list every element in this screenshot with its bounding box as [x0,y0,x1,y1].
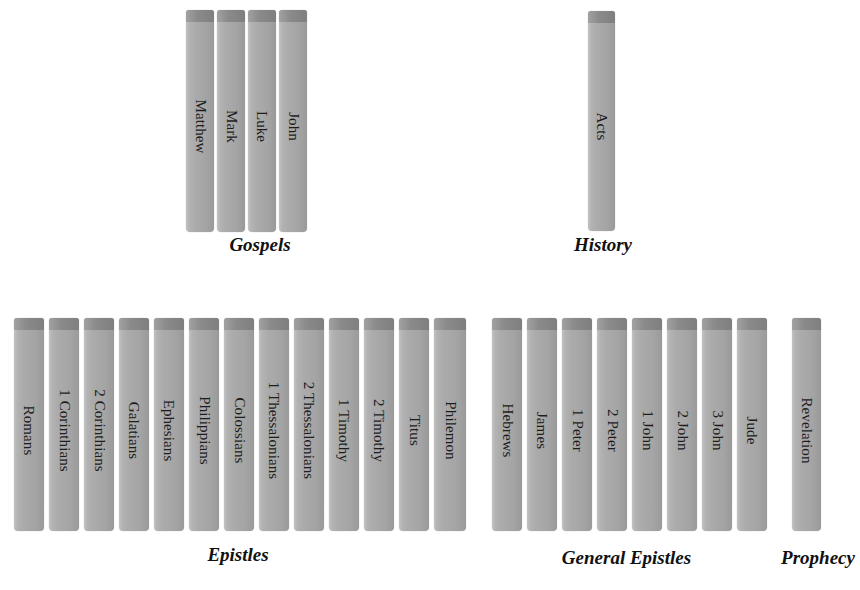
book-spine[interactable]: 1 Timothy [329,318,359,531]
book-title-text: James [535,411,550,448]
book-title: Titus [399,333,429,527]
book-spine[interactable]: Galatians [119,318,149,531]
book-title: Matthew [186,25,214,228]
book-title-text: Matthew [193,99,208,153]
book-top-cap [217,10,245,22]
book-title-text: 2 Timothy [372,398,387,461]
book-spine[interactable]: John [279,10,307,232]
book-title-text: Mark [224,110,239,143]
book-spine[interactable]: 1 Corinthians [49,318,79,531]
book-title-text: 2 John [675,410,690,450]
book-spine[interactable]: 1 John [632,318,662,531]
book-title: Hebrews [492,333,522,527]
book-title-text: Colossians [232,397,247,463]
book-top-cap [588,11,615,23]
book-top-cap [329,318,359,330]
book-spine[interactable]: Colossians [224,318,254,531]
book-title-text: 3 John [710,410,725,450]
book-top-cap [702,318,732,330]
group-caption-prophecy: Prophecy [753,547,860,569]
book-title: 2 Thessalonians [294,333,324,527]
book-title: Jude [737,333,767,527]
book-title-text: 1 Timothy [337,398,352,461]
book-title-text: 2 Thessalonians [302,381,317,478]
book-spine[interactable]: Luke [248,10,276,232]
book-title-text: Hebrews [500,403,515,457]
book-title: Revelation [792,333,821,527]
book-top-cap [186,10,214,22]
book-title: Colossians [224,333,254,527]
book-top-cap [632,318,662,330]
book-spine[interactable]: 1 Peter [562,318,592,531]
book-spine[interactable]: Hebrews [492,318,522,531]
book-spine[interactable]: 3 John [702,318,732,531]
book-spine[interactable]: Jude [737,318,767,531]
book-spine[interactable]: Philemon [434,318,466,531]
book-title: 1 Thessalonians [259,333,289,527]
book-title-text: 1 Peter [570,409,585,452]
book-title: 3 John [702,333,732,527]
book-title-text: Jude [745,416,760,444]
book-title-text: 2 Peter [605,409,620,452]
book-title: Mark [217,25,245,228]
book-title: John [279,25,307,228]
book-title: James [527,333,557,527]
book-spine[interactable]: 2 Timothy [364,318,394,531]
book-title: 1 Corinthians [49,333,79,527]
book-spine[interactable]: Romans [14,318,44,531]
book-spine[interactable]: James [527,318,557,531]
book-title-text: Philemon [443,401,458,459]
book-top-cap [562,318,592,330]
book-spine[interactable]: Mark [217,10,245,232]
book-spine[interactable]: Revelation [792,318,821,531]
book-top-cap [84,318,114,330]
book-title-text: Titus [407,415,422,446]
book-top-cap [119,318,149,330]
book-top-cap [364,318,394,330]
book-top-cap [189,318,219,330]
book-title: 1 Peter [562,333,592,527]
book-title: Luke [248,25,276,228]
book-title: 2 Peter [597,333,627,527]
book-spine[interactable]: Philippians [189,318,219,531]
book-spine[interactable]: Matthew [186,10,214,232]
book-title: 2 Timothy [364,333,394,527]
book-title-text: John [286,112,301,141]
book-spine[interactable]: 2 John [667,318,697,531]
book-top-cap [154,318,184,330]
book-top-cap [279,10,307,22]
group-caption-epistles: Epistles [183,544,293,566]
book-title-text: 1 John [640,410,655,450]
book-title: Galatians [119,333,149,527]
book-title: 2 Corinthians [84,333,114,527]
book-title: Ephesians [154,333,184,527]
book-top-cap [737,318,767,330]
book-title: 1 John [632,333,662,527]
book-title-text: Galatians [127,401,142,459]
book-spine[interactable]: Acts [588,11,615,231]
group-caption-general-epistles: General Epistles [524,547,729,569]
book-spine[interactable]: 2 Peter [597,318,627,531]
book-spine[interactable]: Ephesians [154,318,184,531]
book-spine[interactable]: 2 Corinthians [84,318,114,531]
book-title-text: Revelation [799,397,814,463]
book-top-cap [527,318,557,330]
book-top-cap [792,318,821,330]
book-title-text: Romans [22,405,37,455]
book-top-cap [49,318,79,330]
book-title: Acts [588,26,615,227]
book-spine[interactable]: 1 Thessalonians [259,318,289,531]
book-title: Romans [14,333,44,527]
book-top-cap [667,318,697,330]
book-top-cap [224,318,254,330]
book-title: Philippians [189,333,219,527]
group-caption-history: History [548,234,658,256]
book-top-cap [259,318,289,330]
book-spine[interactable]: Titus [399,318,429,531]
book-spine[interactable]: 2 Thessalonians [294,318,324,531]
book-title-text: Philippians [197,396,212,465]
book-top-cap [597,318,627,330]
book-top-cap [294,318,324,330]
book-title-text: Ephesians [162,399,177,461]
